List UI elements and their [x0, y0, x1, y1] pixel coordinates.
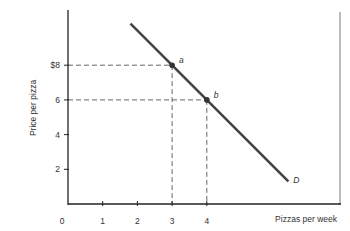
x-axis-label: Pizzas per week: [275, 214, 338, 224]
point-marker: [169, 62, 175, 68]
point-marker: [204, 97, 210, 103]
point-label: b: [214, 90, 219, 100]
demand-chart: 1234 246$8 D ab 0 Pizzas per week Price …: [0, 0, 350, 231]
x-tick-label: 3: [170, 216, 175, 226]
x-tick-label: 4: [204, 216, 209, 226]
y-tick-label: $8: [51, 60, 61, 70]
y-ticks: 246$8: [51, 60, 69, 174]
data-points: ab: [169, 55, 219, 102]
y-tick-label: 4: [55, 130, 60, 140]
x-tick-label: 1: [100, 216, 105, 226]
demand-curve: D: [130, 24, 299, 186]
y-tick-label: 6: [55, 95, 60, 105]
demand-line: [130, 24, 288, 182]
curve-label: D: [293, 175, 299, 185]
guide-lines: [68, 65, 207, 204]
x-tick-label: 2: [135, 216, 140, 226]
origin-label: 0: [60, 216, 65, 226]
y-axis-label: Price per pizza: [28, 80, 38, 136]
y-tick-label: 2: [55, 164, 60, 174]
point-label: a: [179, 55, 184, 65]
